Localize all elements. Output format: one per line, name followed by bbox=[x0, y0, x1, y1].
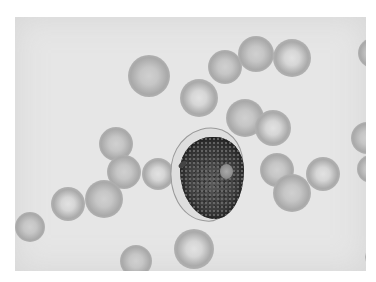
red-blood-cell bbox=[51, 187, 85, 221]
nucleolus bbox=[220, 164, 233, 179]
red-blood-cell bbox=[358, 38, 366, 68]
red-blood-cell bbox=[351, 122, 366, 154]
red-blood-cell bbox=[273, 174, 311, 212]
red-blood-cell bbox=[208, 50, 242, 84]
red-blood-cell bbox=[306, 157, 340, 191]
red-blood-cell bbox=[238, 36, 274, 72]
red-blood-cell bbox=[180, 79, 218, 117]
red-blood-cell bbox=[15, 212, 45, 242]
red-blood-cell bbox=[85, 180, 123, 218]
micrograph-photo bbox=[15, 17, 366, 271]
red-blood-cell bbox=[128, 55, 170, 97]
red-blood-cell bbox=[357, 155, 366, 183]
red-blood-cell bbox=[365, 247, 366, 267]
red-blood-cell bbox=[273, 39, 311, 77]
large-stained-cell bbox=[170, 127, 245, 221]
red-blood-cell bbox=[174, 229, 214, 269]
red-blood-cell bbox=[255, 110, 291, 146]
red-blood-cell bbox=[120, 245, 152, 271]
